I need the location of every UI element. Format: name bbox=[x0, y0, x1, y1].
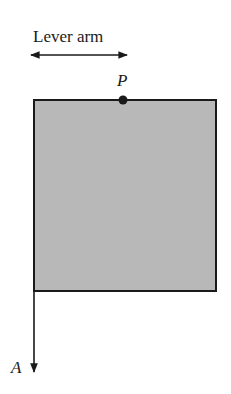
lever-arm-diagram: Lever arm P A bbox=[0, 0, 231, 394]
pivot-point-p bbox=[119, 96, 128, 105]
lever-arm-label: Lever arm bbox=[33, 27, 103, 46]
shaded-body bbox=[34, 100, 216, 291]
force-a-label: A bbox=[10, 358, 22, 377]
point-p-label: P bbox=[116, 71, 127, 90]
